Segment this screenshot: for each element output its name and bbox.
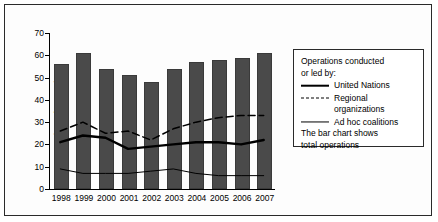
chart-frame: Number of operations 010203040506070 199… (4, 4, 432, 216)
x-axis-tick-label: 2007 (255, 192, 274, 204)
x-axis-tick-label: 2000 (97, 192, 116, 204)
x-axis-tick-label: 1998 (52, 192, 71, 204)
legend-label-regional: Regional (334, 93, 368, 105)
y-axis-tick-label: 20 (35, 140, 44, 149)
line-ad-hoc-coalitions (60, 169, 263, 176)
x-axis-tick-label: 2002 (142, 192, 161, 204)
legend-note-line2: total operations (301, 140, 417, 152)
y-axis-tick-label: 50 (35, 73, 44, 82)
plot-area: 010203040506070 (49, 27, 275, 190)
legend-heading-line1: Operations conducted (301, 56, 417, 68)
x-axis-tick-label: 2004 (187, 192, 206, 204)
line-series (49, 27, 275, 190)
line-united-nations (60, 136, 263, 149)
x-axis-labels: 1998199920002001200220032004200520062007 (49, 192, 275, 206)
legend-line-thin-icon (301, 119, 329, 126)
legend-line-thick-icon (301, 82, 329, 89)
y-axis-tick-label: 70 (35, 29, 44, 38)
y-axis-tick-label: 60 (35, 51, 44, 60)
legend-item-united-nations: United Nations (301, 80, 417, 92)
legend-line-dashed-icon (301, 95, 329, 102)
legend-note-line1: The bar chart shows (301, 128, 417, 140)
y-axis-tick-label: 10 (35, 162, 44, 171)
legend-label-ad-hoc: Ad hoc coalitions (334, 117, 398, 129)
y-axis-tick-label: 0 (39, 185, 44, 194)
legend-item-ad-hoc-coalitions: Ad hoc coalitions (301, 117, 417, 129)
chart-legend: Operations conducted or led by: United N… (293, 49, 424, 147)
x-axis-tick-label: 2001 (120, 192, 139, 204)
legend-label-united-nations: United Nations (334, 80, 390, 92)
x-axis-tick-label: 2003 (165, 192, 184, 204)
legend-item-regional-organizations: Regional (301, 93, 417, 105)
legend-label-regional-cont: organizations (334, 104, 417, 116)
x-axis-tick-label: 2005 (210, 192, 229, 204)
x-axis-tick-label: 2006 (233, 192, 252, 204)
y-axis-tick-label: 30 (35, 118, 44, 127)
y-axis-tick-label: 40 (35, 96, 44, 105)
legend-heading-line2: or led by: (301, 68, 417, 80)
x-axis-tick-label: 1999 (74, 192, 93, 204)
